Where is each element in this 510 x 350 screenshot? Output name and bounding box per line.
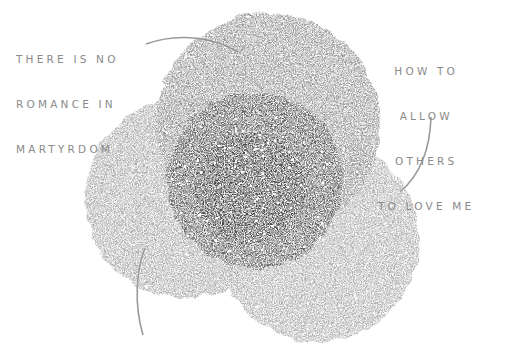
label-line: MARTYRDOM: [16, 142, 119, 157]
label-how-to-allow-others-to-love-me: HOW TO ALLOW OTHERS TO LOVE ME: [378, 34, 474, 244]
label-line: ALLOW: [378, 109, 474, 124]
label-line: OTHERS: [378, 154, 474, 169]
venn-illustration: THERE IS NO ROMANCE IN MARTYRDOM HOW TO …: [0, 0, 510, 350]
label-line: TO LOVE ME: [378, 199, 474, 214]
label-line: HOW TO: [378, 64, 474, 79]
label-there-is-no-romance-in-martyrdom: THERE IS NO ROMANCE IN MARTYRDOM: [16, 22, 119, 187]
label-line: ROMANCE IN: [16, 97, 119, 112]
label-line: THERE IS NO: [16, 52, 119, 67]
